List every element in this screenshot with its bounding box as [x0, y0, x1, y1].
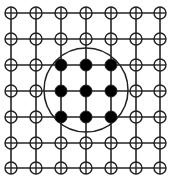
filled-node-icon — [105, 85, 117, 97]
lattice-diagram — [0, 0, 171, 182]
lattice-canvas — [0, 0, 171, 182]
filled-node-icon — [80, 85, 92, 97]
filled-node-icon — [55, 111, 67, 123]
filled-node-icon — [80, 59, 92, 71]
filled-node-icon — [105, 59, 117, 71]
filled-node-icon — [55, 85, 67, 97]
filled-node-icon — [80, 111, 92, 123]
filled-node-icon — [55, 59, 67, 71]
filled-node-icon — [105, 111, 117, 123]
